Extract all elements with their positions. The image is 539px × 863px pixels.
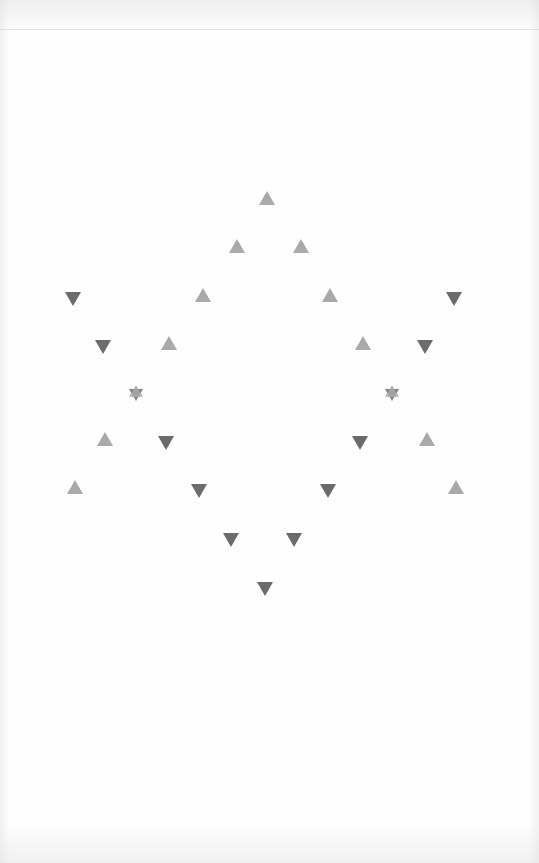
up-triangle-up-top [259,191,275,205]
down-triangle-down-6b [286,533,302,547]
down-triangle-down-bottom [257,582,273,596]
down-triangle-down-1a [65,292,81,306]
up-triangle-up-3a [195,288,211,302]
down-triangle-down-4a [158,436,174,450]
up-triangle-up-6a [97,432,113,446]
triangle-pattern-figure [0,0,539,863]
hexagram-star-star-right [385,385,399,401]
up-triangle-up-7b [448,480,464,494]
down-triangle-down-1b [446,292,462,306]
up-triangle-up-6b [419,432,435,446]
up-triangle-up-4b [355,336,371,350]
down-triangle-down-2b [417,340,433,354]
hexagram-star-star-left [129,385,143,401]
down-triangle-down-2a [95,340,111,354]
up-triangle-up-2b [293,239,309,253]
down-triangle-down-5a [191,484,207,498]
scanned-page [0,0,539,863]
down-triangle-down-4b [352,436,368,450]
up-triangle-up-7a [67,480,83,494]
up-triangle-up-3b [322,288,338,302]
up-triangle-up-4a [161,336,177,350]
up-triangle-up-2a [229,239,245,253]
down-triangle-down-6a [223,533,239,547]
down-triangle-down-5b [320,484,336,498]
